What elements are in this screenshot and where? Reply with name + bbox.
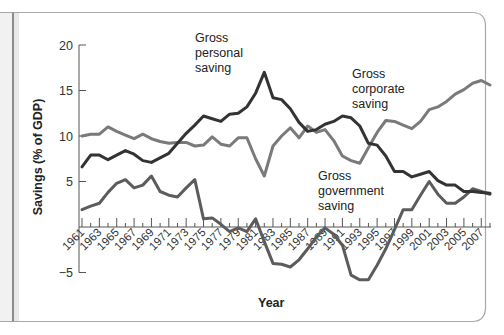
x-axis-title: Year — [258, 296, 285, 310]
gross-personal-saving-label: Gross — [195, 31, 228, 45]
y-tick-label: −5 — [59, 266, 73, 280]
gross-personal-saving-label: personal — [195, 46, 243, 60]
y-tick-label: 5 — [66, 175, 73, 189]
y-tick-label: 15 — [59, 84, 73, 98]
y-tick-label: 10 — [59, 130, 73, 144]
chart-frame: 2015105−51961196319651967196919711973197… — [0, 0, 504, 335]
gross-corporate-saving-label: corporate — [352, 82, 405, 96]
gross-government-saving-label: government — [318, 184, 385, 198]
gross-corporate-saving-label: Gross — [352, 67, 385, 81]
y-axis-title: Savings (% of GDP) — [31, 99, 45, 216]
line-chart: 2015105−51961196319651967196919711973197… — [0, 0, 504, 335]
gross-government-saving-label: saving — [318, 199, 354, 213]
y-tick-label: 20 — [59, 39, 73, 53]
gross-corporate-saving-label: saving — [352, 97, 388, 111]
gross-personal-saving-label: saving — [195, 61, 231, 75]
gross-government-saving-label: Gross — [318, 169, 351, 183]
left-shade — [0, 13, 12, 322]
